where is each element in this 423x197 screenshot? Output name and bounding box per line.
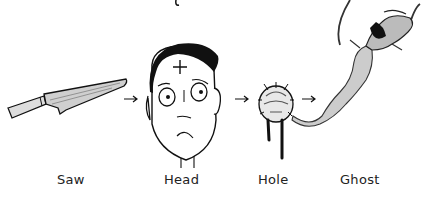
- arrow-icon: [235, 96, 248, 102]
- comic-panel: Saw Head Hole Ghost: [0, 0, 423, 197]
- knife-icon: [8, 79, 127, 118]
- arrow-icon: [302, 96, 315, 102]
- label-ghost: Ghost: [340, 172, 380, 187]
- hole-icon: [258, 82, 294, 158]
- label-head: Head: [164, 172, 199, 187]
- arrow-icon: [124, 96, 137, 102]
- comic-drawing: [0, 0, 423, 197]
- label-hole: Hole: [258, 172, 289, 187]
- ghost-icon: [292, 0, 420, 126]
- partial-glyph: [176, 0, 179, 5]
- head-icon: [146, 43, 220, 168]
- label-saw: Saw: [57, 172, 85, 187]
